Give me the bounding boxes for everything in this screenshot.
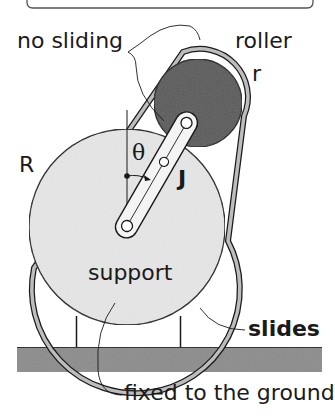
title-box xyxy=(27,0,313,8)
label-roller: roller xyxy=(235,30,292,52)
label-theta: θ xyxy=(132,142,145,164)
label-slides: slides xyxy=(248,318,320,340)
label-support-radius: R xyxy=(19,154,34,176)
label-inertia: J xyxy=(178,168,186,190)
label-roller-radius: r xyxy=(252,63,261,85)
label-fixed: fixed to the ground xyxy=(124,382,335,404)
label-no-sliding: no sliding xyxy=(17,30,123,52)
label-support: support xyxy=(88,262,172,284)
